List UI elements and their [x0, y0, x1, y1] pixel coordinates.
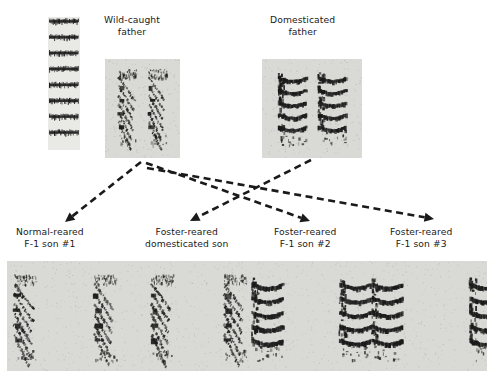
label-line-2: F-1 son #1: [16, 238, 84, 250]
label-line-2: F-1 son #3: [390, 238, 452, 250]
label-line-2: domesticated son: [145, 238, 229, 250]
arrow-domesticated-to-foster-domesticated-son: [198, 160, 311, 217]
figure-root: Wild-caught father Domesticated father N…: [0, 0, 497, 384]
label-line-1: Foster-reared: [156, 226, 218, 237]
label-line-2: father: [104, 26, 160, 38]
label-line-1: Foster-reared: [274, 226, 336, 237]
label-line-1: Foster-reared: [390, 226, 452, 237]
label-line-1: Normal-reared: [16, 226, 84, 237]
arrow-wild-to-normal-reared-son1-head-icon: [65, 213, 75, 223]
label-line-2: father: [270, 26, 335, 38]
spectrogram-domesticated-father: [262, 59, 362, 158]
label-domesticated-father: Domesticated father: [270, 14, 335, 37]
label-wild-caught-father: Wild-caught father: [104, 14, 160, 37]
arrow-wild-to-f1-son3: [147, 168, 425, 217]
label-foster-reared-f1-son-3: Foster-reared F-1 son #3: [390, 226, 452, 249]
arrow-wild-to-f1-son2: [146, 163, 301, 218]
label-line-2: F-1 son #2: [274, 238, 336, 250]
frequency-scale-bar: [48, 17, 80, 150]
label-normal-reared-f1-son-1: Normal-reared F-1 son #1: [16, 226, 84, 249]
spectrogram-wild-caught-father: [105, 59, 180, 158]
arrow-domesticated-to-foster-domesticated-son-head-icon: [190, 213, 201, 221]
label-foster-reared-f1-son-2: Foster-reared F-1 son #2: [274, 226, 336, 249]
arrow-wild-to-f1-son2-head-icon: [300, 214, 310, 223]
label-line-1: Domesticated: [270, 14, 335, 25]
label-foster-reared-domesticated-son: Foster-reared domesticated son: [145, 226, 229, 249]
sons-spectrogram-strip: [7, 261, 487, 371]
arrow-wild-to-f1-son3-head-icon: [424, 213, 434, 222]
label-line-1: Wild-caught: [104, 14, 160, 25]
arrow-wild-to-normal-reared-son1: [72, 162, 141, 216]
